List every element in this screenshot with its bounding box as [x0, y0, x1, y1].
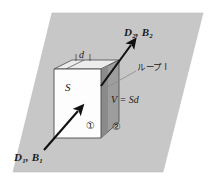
- region-one-label: ①: [86, 121, 95, 131]
- area-label: S: [65, 82, 71, 93]
- field-label-upper: D2, B2: [124, 27, 153, 39]
- region-two-label: ②: [112, 122, 121, 132]
- volume-label: V = Sd: [111, 95, 139, 105]
- thickness-label: d: [79, 50, 84, 60]
- field-label-lower: D1, B1: [14, 152, 43, 164]
- slab-side-shadow: [101, 65, 108, 138]
- physics-diagram: D2, B2 D1, B1 ループ l V = Sd S d ① ②: [0, 0, 218, 186]
- loop-label: ループ l: [137, 63, 167, 72]
